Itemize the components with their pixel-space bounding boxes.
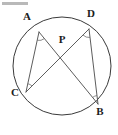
chord-cd xyxy=(26,29,89,92)
vertex-label-p: P xyxy=(59,33,66,45)
angle-mark-b xyxy=(93,96,97,98)
chord-db xyxy=(89,29,98,104)
circle-diagram-canvas: A D C B P xyxy=(0,0,118,135)
vertex-label-b: B xyxy=(96,105,104,117)
chord-ac xyxy=(26,32,39,92)
vertex-label-a: A xyxy=(23,10,31,22)
vertex-label-c: C xyxy=(11,86,19,98)
angle-mark-c xyxy=(28,84,32,86)
geometry-figure: A D C B P xyxy=(0,0,118,135)
vertex-label-d: D xyxy=(87,7,95,19)
angle-mark-a xyxy=(37,39,44,41)
angle-mark-d xyxy=(83,35,90,37)
chord-ab xyxy=(39,32,98,104)
